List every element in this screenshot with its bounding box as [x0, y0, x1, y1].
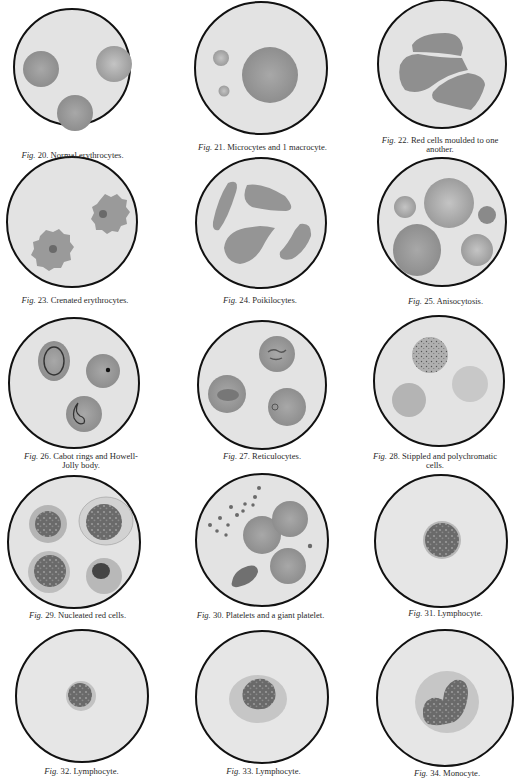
figure-23-crenated-erythrocytes [7, 157, 137, 287]
figure-32-lymphocyte [16, 630, 148, 762]
figure-34-monocyte [377, 630, 513, 766]
caption-fig-25: Fig. 25. Anisocytosis. [398, 297, 493, 306]
figure-25-anisocytosis [378, 158, 506, 286]
figure-24-poikilocytes [196, 158, 326, 288]
figure-26-cabot-rings-howell-jolly [9, 318, 139, 448]
figure-30-platelets-giant-platelet [196, 474, 328, 606]
caption-fig-34: Fig. 34. Monocyte. [402, 769, 492, 778]
caption-fig-28: Fig. 28. Stippled and polychromatic cell… [355, 452, 515, 470]
caption-fig-22: Fig. 22. Red cells moulded to one anothe… [365, 136, 515, 154]
figure-21-microcytes-macrocyte [195, 2, 327, 134]
figure-22-moulded-red-cells [378, 0, 506, 128]
figure-28-stippled-polychromatic [374, 316, 504, 446]
caption-fig-24: Fig. 24. Poikilocytes. [210, 296, 310, 305]
caption-fig-23: Fig. 23. Crenated erythrocytes. [10, 296, 140, 305]
caption-fig-30: Fig. 30. Platelets and a giant platelet. [183, 611, 338, 620]
figure-33-lymphocyte [196, 631, 328, 763]
caption-fig-32: Fig. 32. Lymphocyte. [34, 767, 129, 776]
caption-fig-31: Fig. 31. Lymphocyte. [398, 609, 493, 618]
figure-29-nucleated-red-cells [8, 476, 140, 608]
figure-plate [0, 0, 519, 783]
caption-fig-27: Fig. 27. Reticulocytes. [212, 452, 312, 461]
caption-fig-29: Fig. 29. Nucleated red cells. [15, 611, 140, 620]
figure-27-reticulocytes [198, 321, 326, 449]
caption-fig-21: Fig. 21. Microcytes and 1 macrocyte. [180, 143, 345, 152]
caption-fig-33: Fig. 33. Lymphocyte. [216, 767, 311, 776]
caption-fig-26: Fig. 26. Cabot rings and Howell- Jolly b… [6, 452, 156, 470]
caption-fig-20: Fig. 20. Normal erythrocytes. [10, 151, 135, 160]
figure-31-lymphocyte [375, 475, 507, 607]
figure-20-normal-erythrocytes [14, 9, 132, 131]
